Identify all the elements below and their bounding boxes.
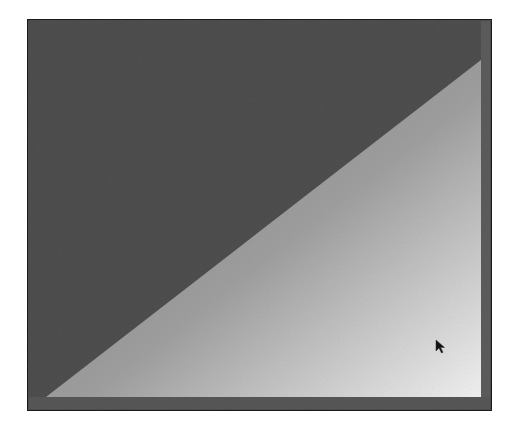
right-inner-strip (481, 21, 490, 409)
scene-canvas (0, 0, 515, 435)
stage: arrow-pointer-icon (0, 0, 515, 435)
bottom-inner-strip (29, 397, 490, 409)
